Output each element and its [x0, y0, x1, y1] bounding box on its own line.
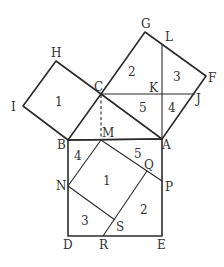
label-e: E — [157, 238, 166, 252]
label-a: A — [161, 138, 171, 152]
label-g: G — [141, 17, 151, 31]
label-c: C — [94, 80, 103, 94]
label-r: R — [99, 238, 109, 252]
label-k: K — [149, 81, 159, 95]
segment-mn — [68, 140, 101, 186]
segment-ns — [68, 186, 115, 220]
label-d: D — [63, 238, 73, 252]
label-p: P — [165, 180, 173, 194]
label-j: J — [194, 92, 201, 106]
region-hyp-3: 3 — [81, 214, 89, 228]
segment-ab — [68, 139, 162, 140]
label-s: S — [116, 220, 124, 234]
region-hyp-1: 1 — [103, 174, 111, 188]
label-q: Q — [144, 158, 154, 172]
region-big-3: 3 — [173, 70, 181, 84]
region-hyp-4: 4 — [74, 149, 82, 163]
label-n: N — [56, 179, 67, 193]
region-hyp-5: 5 — [134, 147, 142, 161]
label-h: H — [51, 46, 61, 60]
label-m: M — [102, 126, 114, 140]
label-l: L — [165, 30, 173, 44]
label-f: F — [208, 71, 216, 85]
label-i: I — [11, 100, 16, 114]
region-big-2: 2 — [128, 65, 136, 79]
region-big-5: 5 — [139, 101, 147, 115]
pythagorean-diagram: G L H F C K J I M B A Q N P S D R E 1 2 … — [0, 0, 224, 267]
region-hyp-2: 2 — [140, 203, 148, 217]
region-small-1: 1 — [55, 95, 63, 109]
region-big-4: 4 — [168, 101, 176, 115]
label-b: B — [57, 138, 66, 152]
